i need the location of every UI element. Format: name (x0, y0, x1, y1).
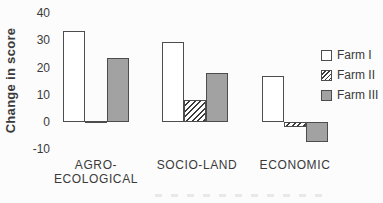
bar-farm-i-socio-land (162, 42, 184, 122)
y-tick-label: 0 (8, 115, 50, 129)
bar-farm-iii-economic (306, 122, 328, 142)
legend-label-farm-iii: Farm III (337, 88, 378, 102)
bar-farm-i-agro-ecological (63, 31, 85, 122)
legend: Farm I Farm II Farm III (321, 45, 378, 105)
bar-chart: Change in score 403020100-10 AGRO- ECOLO… (0, 0, 383, 203)
y-tick-label: 30 (8, 33, 50, 47)
y-tick-label: 20 (8, 61, 50, 75)
bar-farm-iii-agro-ecological (107, 58, 129, 122)
legend-item-farm-ii: Farm II (321, 65, 378, 85)
legend-swatch-farm-ii-icon (321, 70, 332, 81)
bar-farm-iii-socio-land (206, 73, 228, 122)
scan-artifact (155, 194, 330, 197)
bar-farm-i-economic (262, 76, 284, 122)
y-tick-label: 40 (8, 6, 50, 20)
bar-farm-ii-economic (284, 122, 306, 127)
legend-label-farm-ii: Farm II (337, 68, 375, 82)
legend-swatch-farm-i-icon (321, 50, 332, 61)
y-tick-label: -10 (8, 142, 50, 156)
bar-farm-ii-agro-ecological (85, 121, 107, 123)
y-tick-label: 10 (8, 88, 50, 102)
legend-item-farm-iii: Farm III (321, 85, 378, 105)
bar-farm-ii-socio-land (184, 100, 206, 122)
legend-swatch-farm-iii-icon (321, 90, 332, 101)
legend-label-farm-i: Farm I (337, 48, 372, 62)
category-label-economic: ECONOMIC (235, 158, 355, 172)
legend-item-farm-i: Farm I (321, 45, 378, 65)
